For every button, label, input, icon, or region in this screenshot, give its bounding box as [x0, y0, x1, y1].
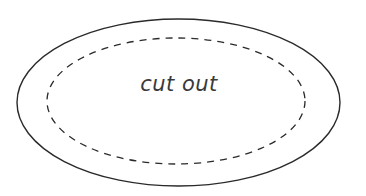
outer-ellipse [17, 19, 340, 186]
inner-dashed-ellipse [47, 38, 305, 164]
cut-out-label: cut out [0, 72, 366, 96]
cutout-diagram [0, 0, 366, 196]
